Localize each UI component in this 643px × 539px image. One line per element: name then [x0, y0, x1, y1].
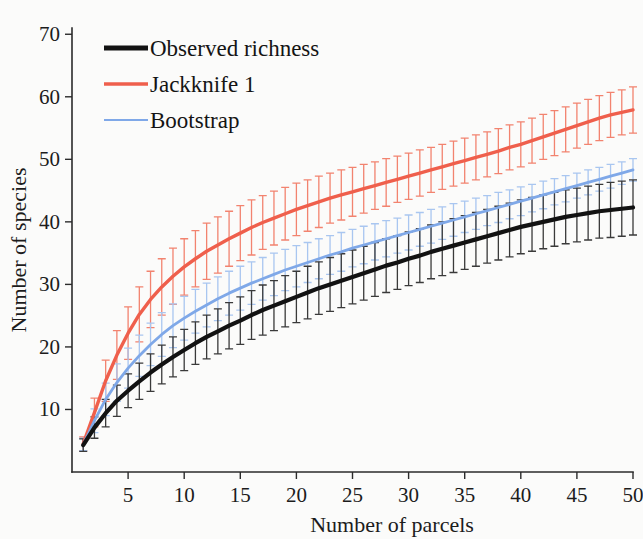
- y-tick-label: 60: [39, 85, 60, 109]
- y-tick-label: 20: [39, 335, 60, 359]
- x-tick-label: 30: [398, 483, 419, 507]
- y-tick-label: 10: [39, 397, 60, 421]
- x-axis-title: Number of parcels: [310, 512, 474, 537]
- x-tick-label: 35: [454, 483, 475, 507]
- y-tick-label: 30: [39, 272, 60, 296]
- x-tick-label: 40: [510, 483, 531, 507]
- y-axis-title: Number of species: [6, 168, 31, 333]
- y-tick-label: 70: [39, 22, 60, 46]
- series-line-bootstrap: [83, 170, 633, 445]
- x-tick-label: 20: [286, 483, 307, 507]
- x-tick-label: 45: [566, 483, 587, 507]
- y-tick-label: 50: [39, 147, 60, 171]
- x-tick-label: 50: [623, 483, 643, 507]
- error-bars-jackknife-1: [79, 87, 637, 451]
- chart-figure: 102030405060705101520253035404550 Observ…: [0, 0, 643, 539]
- y-tick-label: 40: [39, 210, 60, 234]
- x-tick-label: 25: [342, 483, 363, 507]
- legend-label: Jackknife 1: [150, 72, 255, 97]
- series-line-observed-richness: [83, 207, 633, 445]
- legend-label: Observed richness: [150, 36, 319, 61]
- legend: Observed richnessJackknife 1Bootstrap: [104, 36, 319, 133]
- legend-label: Bootstrap: [150, 108, 239, 133]
- x-tick-label: 15: [230, 483, 251, 507]
- series-lines-layer: [83, 110, 633, 445]
- error-bars-bootstrap: [79, 159, 637, 451]
- x-tick-label: 10: [174, 483, 195, 507]
- species-accumulation-chart: 102030405060705101520253035404550 Observ…: [0, 0, 643, 539]
- x-tick-label: 5: [123, 483, 134, 507]
- error-bars-layer: [79, 87, 637, 452]
